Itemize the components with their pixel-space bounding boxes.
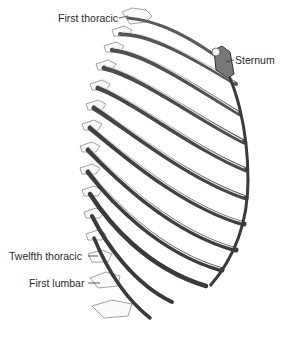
vertebral-column — [80, 8, 152, 318]
rib-6 — [94, 108, 246, 198]
label-sternum: Sternum — [235, 54, 275, 66]
label-twelfth-thoracic: Twelfth thoracic — [9, 250, 82, 262]
label-first-lumbar: First lumbar — [29, 277, 84, 289]
costal-margin — [210, 58, 248, 286]
label-first-thoracic: First thoracic — [58, 12, 118, 24]
